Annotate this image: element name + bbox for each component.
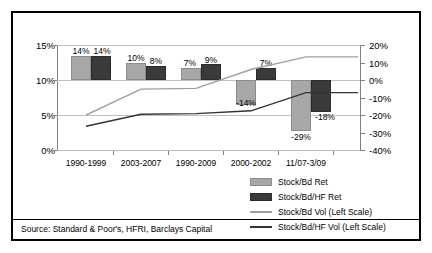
chart-legend: Stock/Bd Ret Stock/Bd/HF Ret Stock/Bd Vo… (250, 174, 415, 234)
right-axis-tick-m20: -20% (369, 110, 391, 121)
bar-label-stockbd-1990-2009: 7% (179, 58, 201, 68)
legend-item-stockbd-ret: Stock/Bd Ret (250, 174, 415, 189)
right-axis-tick-m30: -30% (369, 127, 391, 138)
bar-stockbd-1990-1999 (71, 56, 91, 81)
right-axis-tick-10: 10% (369, 57, 388, 68)
x-tickmark-1 (113, 151, 114, 155)
right-tickmark-m10 (361, 98, 365, 99)
bar-label-stockbd-1107-309: -29% (287, 132, 315, 142)
x-axis-label-1990-1999: 1990-1999 (56, 158, 116, 168)
right-axis-tick-0: 0% (369, 75, 383, 86)
bar-stockbdhf-1990-1999 (91, 56, 111, 81)
bar-label-stockbdhf-1107-309: -18% (311, 112, 339, 122)
left-axis-tick-5: 5% (17, 110, 55, 121)
x-tickmark-2 (168, 151, 169, 155)
right-tickmark-10 (361, 63, 365, 64)
legend-label-stockbdhf-vol: Stock/Bd/HF Vol (Left Scale) (278, 222, 386, 232)
right-tickmark-20 (361, 45, 365, 46)
bar-label-stockbdhf-2003-2007: 8% (145, 56, 167, 66)
left-axis-tick-0: 0% (17, 145, 55, 156)
bar-stockbd-1107-309 (291, 80, 311, 131)
legend-swatch-dark-line-icon (250, 226, 272, 228)
bar-label-stockbdhf-2000-2002: 7% (255, 58, 277, 68)
bar-stockbdhf-1990-2009 (201, 64, 221, 80)
bar-stockbdhf-2000-2002 (256, 68, 276, 80)
gridline-0 (57, 150, 360, 151)
right-tickmark-m30 (361, 133, 365, 134)
x-axis-label-2003-2007: 2003-2007 (111, 158, 171, 168)
legend-label-stockbdhf-ret: Stock/Bd/HF Ret (278, 192, 341, 202)
right-tickmark-m40 (361, 150, 365, 151)
bar-label-stockbdhf-1990-2009: 9% (200, 55, 222, 65)
left-axis-tick-15: 15% (17, 40, 55, 51)
x-tickmark-5 (333, 151, 334, 155)
bar-label-stockbdhf-1990-1999: 14% (90, 46, 114, 56)
right-axis-tick-m40: -40% (369, 145, 391, 156)
left-axis: 15% 10% 5% 0% (13, 13, 55, 239)
x-axis-label-2000-2002: 2000-2002 (221, 158, 281, 168)
right-tickmark-m20 (361, 115, 365, 116)
bar-stockbd-1990-2009 (181, 68, 201, 80)
bar-stockbdhf-2003-2007 (146, 66, 166, 80)
legend-label-stockbd-vol: Stock/Bd Vol (Left Scale) (278, 207, 372, 217)
legend-item-stockbdhf-vol: Stock/Bd/HF Vol (Left Scale) (250, 219, 415, 234)
legend-swatch-light-bar-icon (250, 178, 272, 186)
right-tickmark-0 (361, 80, 365, 81)
x-axis-label-1107-309: 11/07-3/09 (276, 158, 336, 168)
right-axis-tick-m10: -10% (369, 92, 391, 103)
x-tickmark-4 (278, 151, 279, 155)
right-axis-tick-20: 20% (369, 40, 388, 51)
bar-stockbd-2003-2007 (126, 63, 146, 81)
x-tickmark-3 (223, 151, 224, 155)
source-note: Source: Standard & Poor's, HFRI, Barclay… (21, 224, 212, 234)
bar-label-stockbd-2000-2002: -14% (232, 98, 260, 108)
legend-item-stockbdhf-ret: Stock/Bd/HF Ret (250, 189, 415, 204)
left-axis-tick-10: 10% (17, 75, 55, 86)
legend-label-stockbd-ret: Stock/Bd Ret (278, 177, 328, 187)
x-axis-label-1990-2009: 1990-2009 (166, 158, 226, 168)
legend-item-stockbd-vol: Stock/Bd Vol (Left Scale) (250, 204, 415, 219)
chart-figure: 15% 10% 5% 0% 20% 10% 0% -10% -20% -30% … (11, 11, 421, 241)
legend-swatch-light-line-icon (250, 211, 272, 213)
bar-stockbdhf-1107-309 (311, 80, 331, 112)
source-divider (13, 219, 419, 220)
legend-swatch-dark-bar-icon (250, 193, 272, 201)
